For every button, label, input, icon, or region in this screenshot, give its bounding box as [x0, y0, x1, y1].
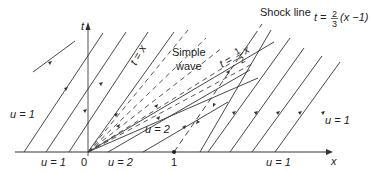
region-label-left-upper: u = 1: [10, 108, 35, 120]
characteristics-diagram: t x 0 1 u = 1 u = 1 u = 2 u = 2 u = 1 u …: [0, 0, 371, 171]
direction-arrows-right: [232, 111, 325, 115]
svg-text:2: 2: [332, 9, 337, 19]
t-equals-x-label: t = x: [127, 42, 148, 67]
t-axis-label: t: [81, 20, 85, 32]
svg-text:3: 3: [332, 19, 337, 29]
region-label-left-axis: u = 1: [41, 156, 66, 168]
x-equals-one-point: [172, 150, 176, 154]
simple-wave-label-1: Simple: [172, 46, 206, 58]
region-label-right-upper: u = 1: [325, 114, 350, 126]
shock-line-label: Shock line: [260, 6, 311, 18]
shock-equation-label: t = 2 3 (x −1): [314, 9, 369, 29]
region-label-right-axis: u = 1: [266, 156, 291, 168]
svg-text:(x −1): (x −1): [340, 11, 369, 23]
origin-label: 0: [81, 156, 87, 168]
t-half-x-label: t = 1 2 x: [216, 41, 255, 75]
region-label-middle-axis: u = 2: [108, 156, 133, 168]
t-axis-arrow-icon: [86, 22, 91, 30]
simple-wave-label-2: wave: [175, 60, 202, 72]
x-axis-label: x: [330, 155, 337, 167]
svg-text:t =: t =: [314, 11, 327, 23]
tick-one-label: 1: [171, 156, 177, 168]
region-label-middle: u = 2: [145, 123, 170, 135]
shock-line: [174, 24, 271, 152]
direction-arrows-left: [48, 61, 103, 131]
u2-characteristics: [88, 42, 274, 152]
